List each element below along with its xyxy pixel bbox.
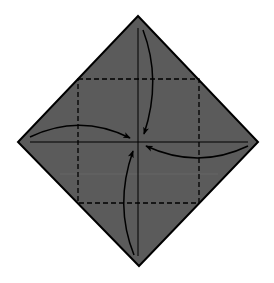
origami-diagram xyxy=(0,0,274,283)
diagram-canvas xyxy=(0,0,274,283)
